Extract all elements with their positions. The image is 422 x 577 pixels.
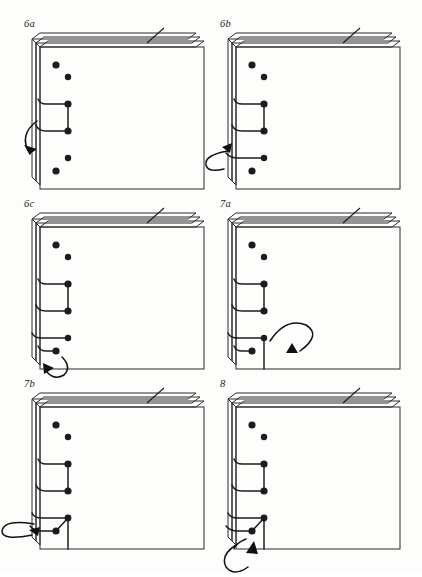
- panel-art-6b: [212, 31, 408, 197]
- panel-6b: 6b: [212, 18, 408, 198]
- corner-loop-arrow-7a: [270, 323, 313, 353]
- panel-art-8: [212, 391, 408, 557]
- flat-loop-arrow-7b: [2, 523, 40, 538]
- page-stack-7a: [228, 213, 400, 369]
- page-stack-7b: [32, 393, 204, 549]
- panel-art-7a: [212, 211, 408, 377]
- bottom-loop-arrow-8: [224, 541, 258, 572]
- sweep-arrow-6a: [24, 121, 37, 154]
- panel-art-6a: [16, 31, 212, 197]
- panel-label-7b: 7b: [24, 378, 35, 390]
- page-stack-6b: [228, 33, 400, 189]
- panel-8: 8: [212, 378, 408, 558]
- page-stack-8: [228, 393, 400, 549]
- panel-label-8: 8: [220, 378, 225, 390]
- panel-art-6c: [16, 211, 212, 377]
- panel-6c: 6c: [16, 198, 212, 378]
- panel-6a: 6a: [16, 18, 212, 198]
- thread-path-7a: [228, 279, 264, 369]
- panel-7b: 7b: [16, 378, 212, 558]
- thread-path-6a: [36, 99, 68, 131]
- panel-label-7a: 7a: [220, 198, 231, 210]
- page-stack-6a: [32, 33, 204, 189]
- panel-label-6c: 6c: [24, 198, 34, 210]
- panel-label-6a: 6a: [24, 18, 35, 30]
- panel-label-6b: 6b: [220, 18, 231, 30]
- panel-art-7b: [16, 391, 212, 557]
- bottom-loop-arrow-6c: [43, 357, 68, 377]
- thread-path-6c: [32, 279, 68, 351]
- panel-7a: 7a: [212, 198, 408, 378]
- page-stack-6c: [32, 213, 204, 369]
